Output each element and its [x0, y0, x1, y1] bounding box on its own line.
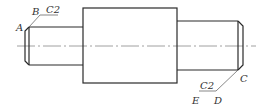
shaft-drawing: A B C2 C C2 D E: [0, 0, 267, 109]
label-b: B: [31, 6, 39, 17]
label-chamfer-left: C2: [46, 4, 60, 15]
right-shaft-segment: [177, 21, 243, 70]
label-e: E: [191, 95, 200, 106]
label-d: D: [213, 95, 222, 106]
label-a: A: [15, 22, 23, 33]
label-c: C: [240, 73, 248, 84]
label-chamfer-right: C2: [200, 80, 214, 91]
center-body: [83, 8, 177, 83]
